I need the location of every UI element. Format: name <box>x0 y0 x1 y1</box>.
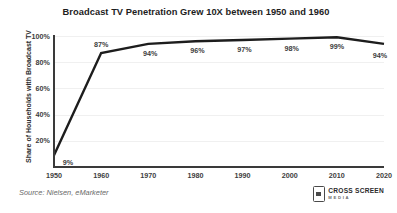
plot-area <box>54 36 384 167</box>
chart-title: Broadcast TV Penetration Grew 10X betwee… <box>0 7 392 17</box>
x-tick-label: 2000 <box>268 171 312 180</box>
data-point-label: 99% <box>317 42 357 51</box>
line-series <box>54 36 384 167</box>
data-point-label: 98% <box>272 44 312 53</box>
brand-logo: CROSS SCREEN MEDIA <box>313 186 384 202</box>
data-point-label: 94% <box>360 51 397 60</box>
y-tick-label: 40% <box>20 110 50 119</box>
brand-text: CROSS SCREEN MEDIA <box>328 188 384 200</box>
brand-name: CROSS SCREEN <box>328 188 384 195</box>
brand-subtitle: MEDIA <box>328 196 384 200</box>
data-point-label: 9% <box>48 158 88 167</box>
y-tick-label: 60% <box>20 84 50 93</box>
x-tick-label: 1970 <box>126 171 170 180</box>
data-point-label: 87% <box>81 40 121 49</box>
data-point-label: 97% <box>225 45 265 54</box>
x-tick-label: 1980 <box>173 171 217 180</box>
brand-mark-icon <box>313 186 325 202</box>
x-axis-line <box>53 166 384 168</box>
source-note: Source: Nielsen, eMarketer <box>19 188 109 197</box>
x-tick-label: 1960 <box>79 171 123 180</box>
y-tick-label: 100% <box>20 32 50 41</box>
y-axis-line <box>53 35 55 168</box>
data-point-label: 94% <box>130 49 170 58</box>
x-tick-label: 2010 <box>315 171 359 180</box>
y-tick-label: 20% <box>20 136 50 145</box>
x-tick-label: 1950 <box>32 171 76 180</box>
x-tick-label: 1990 <box>221 171 265 180</box>
y-tick-label: 80% <box>20 58 50 67</box>
y-axis-tick-labels: 20%40%60%80%100% <box>16 0 50 213</box>
data-point-label: 96% <box>177 46 217 55</box>
x-tick-label: 2020 <box>362 171 397 180</box>
